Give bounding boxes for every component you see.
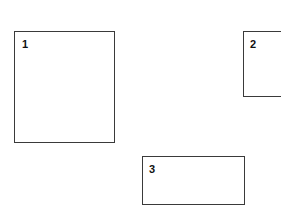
rectangle-3-label: 3 [149,164,155,175]
rectangle-2[interactable]: 2 [243,31,281,97]
rectangle-3[interactable]: 3 [142,156,245,205]
rectangle-1[interactable]: 1 [14,31,115,143]
rectangle-1-label: 1 [22,39,28,50]
rectangle-2-label: 2 [250,39,256,50]
diagram-canvas: 1 2 3 [0,0,281,212]
